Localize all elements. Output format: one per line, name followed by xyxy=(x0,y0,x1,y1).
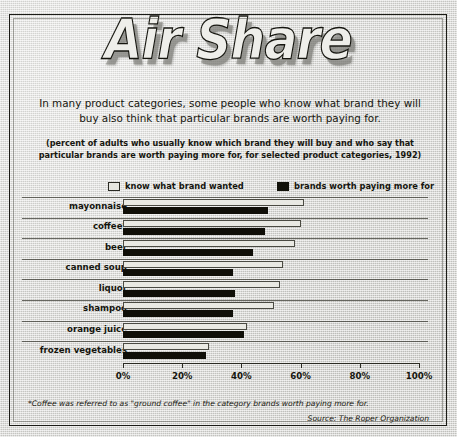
row-separator xyxy=(22,279,428,280)
legend-label-0: know what brand wanted xyxy=(125,181,244,191)
bar-brands-worth-paying-more-for xyxy=(123,249,253,256)
bar-group xyxy=(123,302,428,319)
legend-swatch-light xyxy=(108,182,120,191)
bar-know-what-brand-wanted xyxy=(123,199,304,206)
category-label: coffee* xyxy=(93,221,127,231)
chart-row: mayonnaise xyxy=(22,197,430,218)
x-axis-line xyxy=(123,363,419,364)
deck-text: In many product categories, some people … xyxy=(30,96,430,126)
legend-item-brands-worth-paying-more-for: brands worth paying more for xyxy=(277,181,434,191)
category-label: orange juice xyxy=(67,324,127,334)
bar-know-what-brand-wanted xyxy=(123,343,209,350)
category-label: frozen vegetables xyxy=(40,345,127,355)
page-title: Air Share xyxy=(105,6,352,71)
category-label: mayonnaise xyxy=(69,201,127,211)
bar-group xyxy=(123,281,428,298)
x-axis-tick-label: 40% xyxy=(231,371,252,381)
bar-brands-worth-paying-more-for xyxy=(123,207,268,214)
bar-know-what-brand-wanted xyxy=(123,323,247,330)
bar-group xyxy=(123,199,428,216)
x-axis-tick xyxy=(419,363,420,368)
chart-legend: know what brand wanted brands worth payi… xyxy=(108,181,428,195)
bar-group xyxy=(123,261,428,278)
bar-chart-plot-area: mayonnaisecoffee*beercanned soupliquorsh… xyxy=(22,197,430,363)
chart-row: orange juice xyxy=(22,321,430,342)
bar-group xyxy=(123,220,428,237)
row-separator xyxy=(22,197,428,198)
subdeck-text: (percent of adults who usually know whic… xyxy=(28,137,432,161)
chart-row: liquor xyxy=(22,279,430,300)
bar-brands-worth-paying-more-for xyxy=(123,228,265,235)
row-separator xyxy=(22,218,428,219)
chart-row: beer xyxy=(22,238,430,259)
x-axis-tick xyxy=(360,363,361,368)
bar-brands-worth-paying-more-for xyxy=(123,331,244,338)
x-axis-tick-label: 100% xyxy=(406,371,433,381)
x-axis-tick-label: 20% xyxy=(172,371,193,381)
chart-row: coffee* xyxy=(22,218,430,239)
legend-swatch-dark xyxy=(277,182,289,191)
x-axis-tick xyxy=(301,363,302,368)
category-label: canned soup xyxy=(66,262,127,272)
row-separator xyxy=(22,341,428,342)
x-axis-tick xyxy=(182,363,183,368)
bar-know-what-brand-wanted xyxy=(123,281,280,288)
x-axis-tick-label: 0% xyxy=(116,371,131,381)
x-axis-tick-label: 60% xyxy=(290,371,311,381)
bar-group xyxy=(123,323,428,340)
row-separator xyxy=(22,259,428,260)
bar-group xyxy=(123,240,428,257)
bar-group xyxy=(123,343,428,360)
row-separator xyxy=(22,321,428,322)
bar-know-what-brand-wanted xyxy=(123,240,295,247)
row-separator xyxy=(22,238,428,239)
chart-row: frozen vegetables xyxy=(22,341,430,362)
bar-brands-worth-paying-more-for xyxy=(123,290,235,297)
category-label: shampoo xyxy=(83,303,127,313)
chart-row: shampoo xyxy=(22,300,430,321)
x-axis-tick xyxy=(123,363,124,368)
legend-item-know-what-brand-wanted: know what brand wanted xyxy=(108,181,244,191)
legend-label-1: brands worth paying more for xyxy=(294,181,434,191)
x-axis-tick-labels: 0%20%40%60%80%100% xyxy=(0,371,457,385)
chart-title-banner: Air Share xyxy=(0,2,457,74)
x-axis-tick xyxy=(241,363,242,368)
source-text: Source: The Roper Organization xyxy=(308,414,429,423)
bar-know-what-brand-wanted xyxy=(123,220,301,227)
x-axis-tick-label: 80% xyxy=(350,371,371,381)
bar-brands-worth-paying-more-for xyxy=(123,352,206,359)
bar-brands-worth-paying-more-for xyxy=(123,310,233,317)
bar-brands-worth-paying-more-for xyxy=(123,269,233,276)
row-separator xyxy=(22,300,428,301)
footnote-text: *Coffee was referred to as "ground coffe… xyxy=(28,399,369,408)
chart-row: canned soup xyxy=(22,259,430,280)
bar-know-what-brand-wanted xyxy=(123,302,274,309)
bar-know-what-brand-wanted xyxy=(123,261,283,268)
